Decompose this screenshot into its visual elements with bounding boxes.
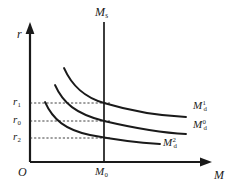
- demand-curve-md1: [64, 68, 186, 117]
- x-axis-label: M: [214, 169, 224, 181]
- origin-label: O: [18, 166, 27, 178]
- money-market-diagram: r M O Ms M0 r1 r0 r2 M1d M0d M2d: [0, 0, 228, 194]
- y-tick-label-r2: r2: [13, 131, 21, 142]
- demand-curve-md0: [55, 85, 186, 134]
- x-axis-arrow-icon: [200, 158, 212, 167]
- demand-curve-md2: [45, 102, 160, 144]
- x-tick-label-m0: M0: [95, 166, 108, 177]
- money-supply-label: Ms: [95, 6, 108, 18]
- diagram-canvas: [0, 0, 228, 194]
- y-axis-arrow-icon: [26, 22, 35, 34]
- y-tick-label-r1: r1: [13, 96, 21, 107]
- curve-label-md0: M0d: [193, 119, 209, 130]
- y-axis-label: r: [17, 28, 22, 40]
- y-tick-label-r0: r0: [13, 114, 21, 125]
- curve-label-md1: M1d: [193, 100, 209, 111]
- curve-label-md2: M2d: [163, 137, 179, 148]
